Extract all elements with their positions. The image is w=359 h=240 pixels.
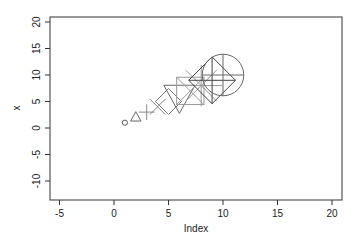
y-tick-label: 10 — [31, 69, 42, 81]
x-tick-label: 10 — [217, 208, 229, 219]
x-axis-title: Index — [184, 223, 208, 234]
x-tick-label: -5 — [55, 208, 64, 219]
data-points — [122, 54, 244, 125]
y-tick-label: -5 — [31, 150, 42, 159]
x-tick-label: 15 — [272, 208, 284, 219]
y-tick-label: 20 — [31, 16, 42, 28]
x-tick-label: 0 — [111, 208, 117, 219]
circle-marker — [122, 120, 127, 125]
x-tick-label: 5 — [166, 208, 172, 219]
y-axis: -10-505101520 — [31, 16, 50, 188]
x-axis: -505101520 — [55, 200, 338, 219]
y-axis-title: x — [11, 106, 22, 111]
y-tick-label: 15 — [31, 43, 42, 55]
scatter-plot: -505101520 -10-505101520 Index x — [0, 0, 359, 240]
y-tick-label: -10 — [31, 173, 42, 188]
y-tick-label: 0 — [31, 125, 42, 131]
plot-box — [50, 17, 342, 200]
x-tick-label: 20 — [326, 208, 338, 219]
y-tick-label: 5 — [31, 98, 42, 104]
triangle-up-marker — [131, 112, 141, 121]
